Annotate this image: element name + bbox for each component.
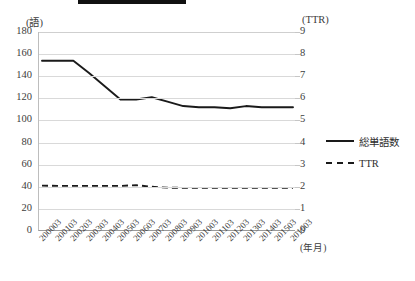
right-axis-tick-mark [295,32,300,33]
left-axis-tick-label: 0 [4,224,32,235]
gridline [39,76,296,77]
chart-legend: 総単語数 TTR [326,130,412,174]
left-axis-tick-label: 120 [4,91,32,102]
gridline [39,32,296,33]
right-axis-tick-label: 1 [300,202,324,213]
left-axis-tick-label: 80 [4,136,32,147]
series-lines [39,32,296,231]
right-axis-unit-label: (TTR) [302,14,329,25]
left-axis-tick-label: 40 [4,180,32,191]
right-axis-tick-label: 9 [300,25,324,36]
gridline [39,165,296,166]
legend-solid-line-icon [326,136,354,146]
right-axis-tick-label: 5 [300,113,324,124]
legend-item-ttr: TTR [326,152,412,174]
right-axis-tick-label: 7 [300,69,324,80]
gridline [39,54,296,55]
right-axis-tick-mark [295,165,300,166]
left-axis-tick-label: 60 [4,158,32,169]
redacted-title-bar [78,0,186,4]
left-axis-tick-label: 180 [4,25,32,36]
right-axis-tick-mark [295,98,300,99]
series-line-total-words [42,61,293,109]
legend-dashed-line-icon [326,158,354,168]
right-axis-tick-label: 3 [300,158,324,169]
gridline [39,209,296,210]
legend-label-ttr: TTR [359,158,379,169]
right-axis-tick-mark [295,187,300,188]
plot-area [38,32,295,231]
gridline [39,120,296,121]
right-axis-tick-mark [295,76,300,77]
right-axis-tick-label: 4 [300,136,324,147]
left-axis-tick-label: 20 [4,202,32,213]
gridline [39,187,296,188]
x-axis-title: (年月) [300,240,326,254]
chart-figure: (語) (TTR) 180160140120100806040200 98765… [0,0,415,281]
right-axis-tick-mark [295,143,300,144]
right-axis-tick-mark [295,120,300,121]
legend-item-total-words: 総単語数 [326,130,412,152]
left-axis-tick-label: 160 [4,47,32,58]
legend-label-total-words: 総単語数 [359,134,399,149]
right-axis-tick-label: 2 [300,180,324,191]
right-axis-tick-mark [295,54,300,55]
left-axis-tick-label: 100 [4,113,32,124]
right-axis-tick-label: 6 [300,91,324,102]
gridline [39,98,296,99]
right-axis-tick-label: 8 [300,47,324,58]
right-axis-tick-mark [295,209,300,210]
left-axis-tick-label: 140 [4,69,32,80]
gridline [39,143,296,144]
